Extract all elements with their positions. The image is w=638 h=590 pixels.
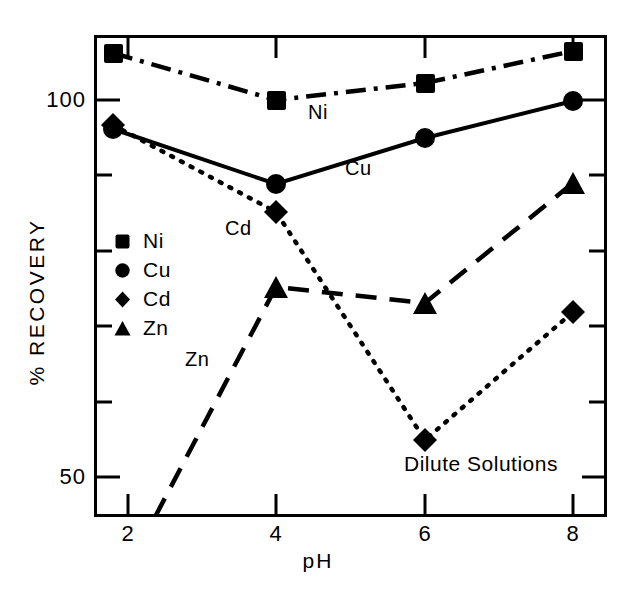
series-line-ni xyxy=(113,51,573,100)
diamond-marker-icon xyxy=(112,288,134,310)
square-marker-icon xyxy=(112,230,134,252)
legend-label-ni: Ni xyxy=(143,229,164,253)
recovery-vs-ph-chart: % RECOVERY pH 100 50 2 4 6 8 Ni Cu Cd Zn… xyxy=(0,0,638,590)
triangle-marker-icon xyxy=(112,317,134,339)
series-markers-ni xyxy=(104,42,583,110)
plot-canvas xyxy=(0,0,638,590)
legend-label-cu: Cu xyxy=(143,258,171,282)
series-markers-zn xyxy=(264,172,585,314)
x-tick-label-2: 2 xyxy=(121,521,134,547)
y-tick-label-50: 50 xyxy=(24,464,86,490)
legend-item-zn: Zn xyxy=(112,313,171,342)
x-axis-bottom-ticks xyxy=(128,494,573,516)
series-inline-label-cd: Cd xyxy=(225,217,252,240)
x-axis-title: pH xyxy=(303,549,334,573)
series-inline-label-zn: Zn xyxy=(185,348,209,371)
series-inline-label-ni: Ni xyxy=(308,101,328,124)
x-axis-top-ticks xyxy=(128,37,573,59)
plot-frame xyxy=(96,37,606,516)
x-tick-label-8: 8 xyxy=(566,521,579,547)
x-tick-label-6: 6 xyxy=(418,521,431,547)
y-axis-right-ticks xyxy=(582,100,606,477)
legend-item-cu: Cu xyxy=(112,255,171,284)
series-inline-label-cu: Cu xyxy=(345,157,372,180)
series-markers-cu xyxy=(103,91,583,194)
annotation-dilute-solutions: Dilute Solutions xyxy=(404,452,558,476)
y-axis-title: % RECOVERY xyxy=(25,202,49,402)
legend-label-cd: Cd xyxy=(143,287,171,311)
legend: Ni Cu Cd Zn xyxy=(112,226,171,342)
legend-label-zn: Zn xyxy=(143,316,169,340)
legend-item-ni: Ni xyxy=(112,226,171,255)
x-tick-label-4: 4 xyxy=(269,521,282,547)
legend-item-cd: Cd xyxy=(112,284,171,313)
y-tick-label-100: 100 xyxy=(24,87,86,113)
series-line-cu xyxy=(113,101,573,184)
series-line-cd xyxy=(113,125,573,440)
y-axis-minor-ticks xyxy=(96,175,113,402)
circle-marker-icon xyxy=(112,259,134,281)
